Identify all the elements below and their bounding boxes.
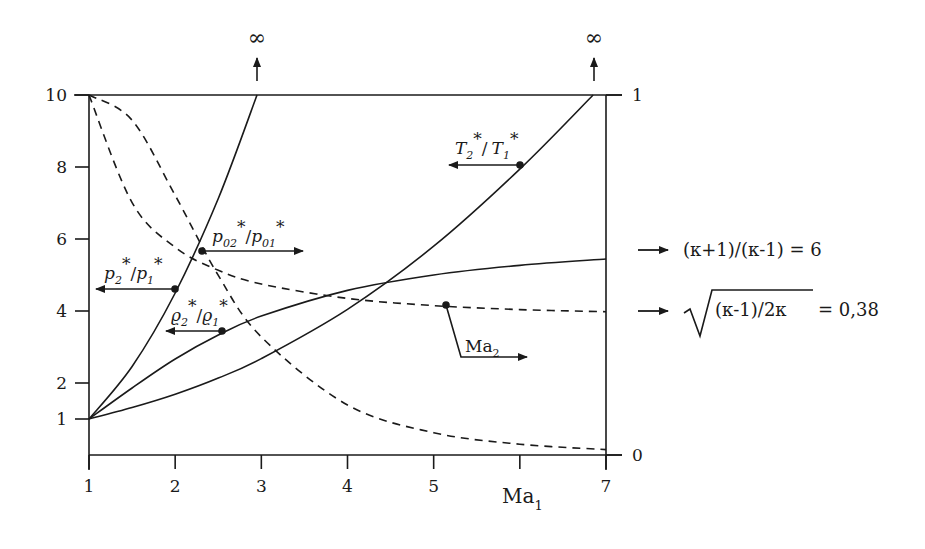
curve-ma2 [89, 95, 606, 312]
infinity-symbol-p: ∞ [248, 25, 266, 50]
curve-p2-p1 [89, 95, 257, 419]
p0-ratio-label: p02*/p01* [212, 217, 285, 250]
y-left-tick-label: 2 [56, 373, 67, 393]
x-tick-label: 5 [428, 476, 439, 496]
rho-ratio-label: ϱ2*/ϱ1* [171, 296, 228, 329]
infinity-markers: ∞ ∞ [248, 25, 603, 81]
y-right-tick-label: 1 [632, 85, 643, 105]
asymptote-label-rho: (κ+1)/(κ-1) = 6 [683, 239, 822, 260]
infinity-symbol-T: ∞ [585, 25, 603, 50]
y-left-tick-label: 6 [56, 229, 67, 249]
asymptote-annotations: (κ+1)/(κ-1) = 6 (κ-1)/2κ = 0,38 [638, 239, 879, 336]
shock-relations-chart: 123457124681001 ∞ ∞ p2*/p1* ϱ2*/ϱ1* [0, 0, 925, 549]
x-tick-label: 2 [170, 476, 181, 496]
y-left-tick-label: 8 [56, 157, 67, 177]
asymptote-radicand-ma2: (κ-1)/2κ [715, 299, 787, 320]
x-axis-title: Ma1 [502, 484, 543, 513]
curve--2-1 [89, 259, 606, 419]
p-ratio-label: p2*/p1* [104, 254, 163, 287]
curves [89, 95, 606, 450]
y-right-tick-label: 0 [632, 445, 643, 465]
axes [74, 95, 622, 470]
x-tick-label: 1 [84, 476, 95, 496]
axis-ticks [75, 95, 622, 469]
x-tick-label: 7 [601, 476, 612, 496]
y-left-tick-label: 1 [56, 409, 67, 429]
T-ratio-label: T2*/T1* [455, 129, 519, 162]
y-left-tick-label: 10 [45, 85, 67, 105]
x-tick-label: 4 [342, 476, 353, 496]
x-tick-label: 3 [256, 476, 267, 496]
y-left-tick-label: 4 [56, 301, 67, 321]
curve-labels: p2*/p1* ϱ2*/ϱ1* p02*/p01* T2*/T1* Ma2 [104, 129, 519, 360]
asymptote-value-ma2: = 0,38 [818, 299, 879, 320]
